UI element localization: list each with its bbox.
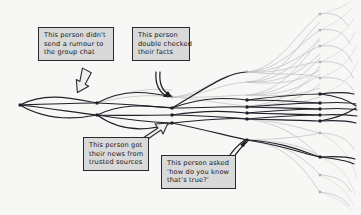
arrow-box1 <box>71 68 95 96</box>
callout2-line1: This person <box>138 31 185 40</box>
callout3-line3: trusted sources <box>89 158 144 167</box>
callout-double-checked-facts: This person double checked their facts <box>132 27 190 61</box>
callout1-line3: the group chat <box>44 48 109 57</box>
callout4-line2: ‘how do you know <box>167 168 231 177</box>
callout1-line1: This person didn't <box>44 31 109 40</box>
callout4-line3: that’s true?’ <box>167 176 231 185</box>
callout-didnt-send-rumour: This person didn't send a rumour to the … <box>38 27 114 61</box>
callout1-line2: send a rumour to <box>44 40 109 49</box>
callout2-line3: their facts <box>138 48 185 57</box>
callout-how-do-you-know: This person asked ‘how do you know that’… <box>161 155 236 189</box>
callout3-line1: This person got <box>89 141 144 150</box>
callout3-line2: their news from <box>89 150 144 159</box>
callout2-line2: double checked <box>138 40 185 49</box>
callout-trusted-sources: This person got their news from trusted … <box>83 137 149 171</box>
diagram-canvas: This person didn't send a rumour to the … <box>0 0 361 215</box>
callout4-line1: This person asked <box>167 159 231 168</box>
